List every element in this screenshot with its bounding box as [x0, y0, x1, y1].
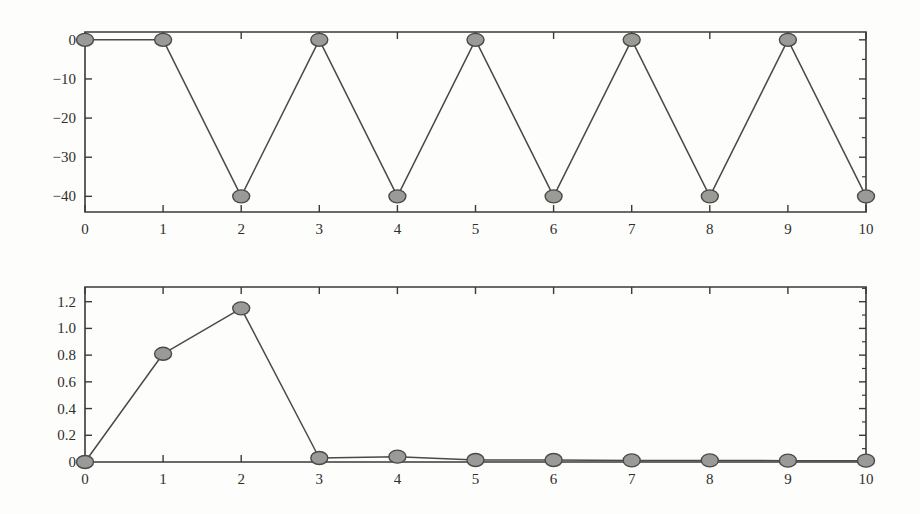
x-tick-label: 1 [159, 471, 167, 487]
x-tick-label: 4 [394, 471, 402, 487]
top-chart-svg: 0123456789100−10−20−30−40 [0, 0, 920, 257]
data-point-marker [779, 33, 796, 46]
x-tick-label: 10 [859, 221, 874, 237]
data-point-marker [858, 190, 875, 203]
x-tick-label: 6 [550, 221, 558, 237]
y-tick-label: −30 [53, 149, 76, 165]
y-tick-label: −40 [53, 188, 76, 204]
data-point-marker [467, 453, 484, 466]
y-tick-label: 1.2 [57, 294, 76, 310]
x-tick-label: 4 [394, 221, 402, 237]
x-tick-label: 7 [628, 221, 636, 237]
plot-frame [85, 32, 866, 212]
data-point-marker [623, 454, 640, 467]
y-tick-label: 0.2 [57, 427, 76, 443]
data-point-marker [623, 33, 640, 46]
x-tick-label: 3 [316, 471, 324, 487]
data-point-marker [233, 302, 250, 315]
data-point-marker [545, 453, 562, 466]
data-point-marker [779, 454, 796, 467]
x-tick-label: 8 [706, 221, 714, 237]
y-tick-label: 0.4 [57, 401, 76, 417]
data-point-marker [155, 347, 172, 360]
data-point-marker [389, 190, 406, 203]
x-tick-label: 8 [706, 471, 714, 487]
y-tick-label: 0 [69, 454, 77, 470]
x-tick-label: 7 [628, 471, 636, 487]
chart-panel-bottom: 01234567891000.20.40.60.81.01.2 [0, 257, 920, 514]
data-point-marker [77, 33, 94, 46]
x-tick-label: 5 [472, 221, 480, 237]
figure-container: 0123456789100−10−20−30−40 01234567891000… [0, 0, 920, 514]
data-point-marker [233, 190, 250, 203]
x-tick-label: 2 [237, 471, 245, 487]
data-point-marker [858, 454, 875, 467]
x-tick-label: 9 [784, 221, 792, 237]
chart-panel-top: 0123456789100−10−20−30−40 [0, 0, 920, 257]
x-tick-label: 5 [472, 471, 480, 487]
data-series-line [85, 308, 866, 462]
data-point-marker [467, 33, 484, 46]
data-point-marker [77, 456, 94, 469]
data-point-marker [545, 190, 562, 203]
y-tick-label: −20 [53, 110, 76, 126]
y-tick-label: 1.0 [57, 320, 76, 336]
data-point-marker [701, 190, 718, 203]
plot-frame [85, 287, 866, 462]
x-tick-label: 2 [237, 221, 245, 237]
data-series-line [85, 40, 866, 197]
data-point-marker [389, 450, 406, 463]
y-tick-label: 0.6 [57, 374, 76, 390]
x-tick-label: 6 [550, 471, 558, 487]
data-point-marker [701, 454, 718, 467]
bottom-chart-svg: 01234567891000.20.40.60.81.01.2 [0, 257, 920, 514]
data-point-marker [155, 33, 172, 46]
y-tick-label: 0 [69, 32, 77, 48]
x-tick-label: 0 [81, 471, 89, 487]
x-tick-label: 1 [159, 221, 167, 237]
x-tick-label: 9 [784, 471, 792, 487]
y-tick-label: 0.8 [57, 347, 76, 363]
data-point-marker [311, 33, 328, 46]
x-tick-label: 3 [316, 221, 324, 237]
x-tick-label: 10 [859, 471, 874, 487]
y-tick-label: −10 [53, 71, 76, 87]
data-point-marker [311, 451, 328, 464]
x-tick-label: 0 [81, 221, 89, 237]
